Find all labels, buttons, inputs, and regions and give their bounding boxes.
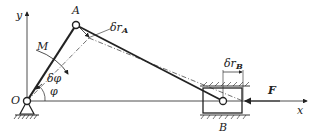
delta-rb-label: δrB	[224, 57, 243, 71]
bottom-guide-hatch	[200, 115, 250, 119]
origin-label: O	[11, 94, 20, 107]
phi-label: φ	[50, 85, 58, 98]
connecting-rod-ab	[76, 25, 223, 101]
pin-o	[24, 98, 31, 105]
angle-arc: δφ φ	[36, 72, 62, 101]
virtual-position-dashed	[27, 38, 243, 101]
moment-label: M	[36, 40, 49, 53]
x-axis-label: x	[297, 104, 304, 117]
delta-ra-label: δrA	[110, 21, 128, 35]
force-f-arrow: F	[245, 84, 280, 101]
slider-crank-diagram: y x M δφ φ	[0, 0, 317, 140]
y-axis-label: y	[15, 9, 23, 22]
point-a-label: A	[71, 4, 80, 17]
pin-b	[220, 98, 227, 105]
force-label: F	[267, 84, 277, 97]
x-axis: x	[27, 101, 307, 117]
delta-rb-indicator: δrB	[223, 57, 243, 100]
pin-a	[73, 22, 80, 29]
delta-phi-label: δφ	[47, 72, 62, 85]
point-b-label: B	[218, 121, 227, 134]
top-guide-hatch	[200, 82, 250, 86]
y-axis: y	[15, 9, 27, 101]
